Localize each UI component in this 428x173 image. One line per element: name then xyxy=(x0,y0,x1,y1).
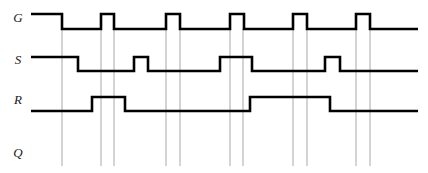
timing-diagram-canvas: GSRQ xyxy=(0,0,428,173)
signal-label-g: G xyxy=(13,10,23,25)
signal-label-q: Q xyxy=(13,145,23,160)
waveform-s xyxy=(31,57,418,71)
signal-labels-group: GSRQ xyxy=(13,10,23,160)
signal-label-r: R xyxy=(13,92,22,107)
waveforms-group xyxy=(31,14,418,111)
signal-label-s: S xyxy=(15,52,22,67)
waveform-g xyxy=(31,14,418,29)
timing-diagram: GSRQ xyxy=(0,0,428,173)
waveform-r xyxy=(31,97,418,111)
